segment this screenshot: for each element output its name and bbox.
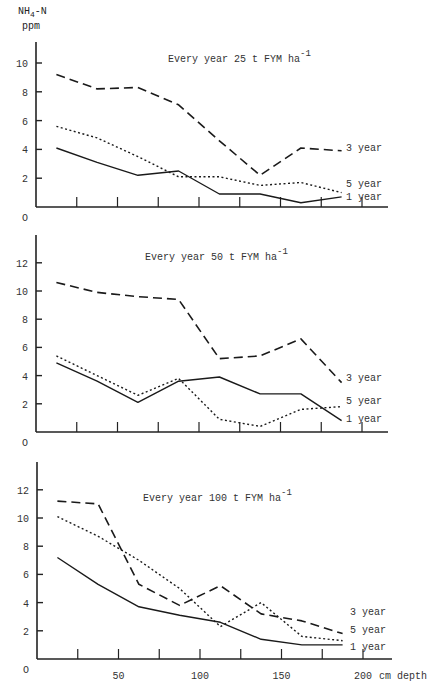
y-tick-label: O: [22, 213, 28, 224]
panel-title: Every year 50 t FYM ha-1: [145, 247, 288, 263]
y-tick-label: 2: [22, 174, 28, 185]
chart-panel-2: O24681012Every year 50 t FYM ha-13 year5…: [16, 235, 388, 449]
y-tick-label: 8: [23, 542, 29, 553]
y-tick-label: 2: [22, 400, 28, 411]
y-tick-label: 6: [22, 343, 28, 354]
series-line-3-year: [56, 283, 341, 383]
y-tick-label: 4: [22, 145, 28, 156]
x-axis-unit-label: cm depth: [379, 671, 427, 682]
series-line-3-year: [57, 501, 342, 633]
panel-title: Every year 25 t FYM ha-1: [168, 49, 311, 65]
y-tick-label: 12: [17, 486, 29, 497]
legend-label: 5 year: [346, 396, 382, 407]
x-tick-label: 100: [191, 671, 209, 682]
series-line-1-year: [56, 148, 341, 203]
y-tick-label: 8: [22, 315, 28, 326]
chart-panel-1: O246810Every year 25 t FYM ha-13 year5 y…: [16, 42, 388, 224]
panel-title: Every year 100 t FYM ha-1: [143, 488, 292, 504]
y-tick-label: 12: [16, 259, 28, 270]
y-tick-label: 10: [16, 287, 28, 298]
y-tick-label: O: [22, 438, 28, 449]
series-line-5-year: [57, 517, 342, 641]
legend-label: 1 year: [346, 192, 382, 203]
x-tick-label: 50: [112, 671, 124, 682]
legend-label: 3 year: [350, 607, 386, 618]
y-tick-label: 4: [23, 599, 29, 610]
legend-label: 3 year: [346, 143, 382, 154]
y-tick-label: 4: [22, 372, 28, 383]
y-tick-label: 6: [22, 117, 28, 128]
y-tick-label: O: [23, 665, 29, 676]
legend-label: 3 year: [346, 373, 382, 384]
x-tick-label: 150: [272, 671, 290, 682]
nh4-depth-profile-figure: O246810Every year 25 t FYM ha-13 year5 y…: [0, 0, 432, 687]
y-tick-label: 6: [23, 570, 29, 581]
x-tick-label: 200: [354, 671, 372, 682]
series-line-3-year: [56, 75, 341, 176]
series-line-1-year: [56, 363, 341, 421]
y-tick-label: 2: [23, 627, 29, 638]
legend-label: 5 year: [346, 179, 382, 190]
y-tick-label: 10: [16, 59, 28, 70]
series-line-1-year: [57, 558, 342, 645]
legend-label: 1 year: [346, 414, 382, 425]
legend-label: 5 year: [350, 625, 386, 636]
legend-label: 1 year: [350, 642, 386, 653]
chart-panel-3: O2468101250100150200cm depthEvery year 1…: [17, 462, 427, 682]
y-tick-label: 8: [22, 88, 28, 99]
y-tick-label: 10: [17, 514, 29, 525]
series-line-5-year: [56, 356, 341, 427]
